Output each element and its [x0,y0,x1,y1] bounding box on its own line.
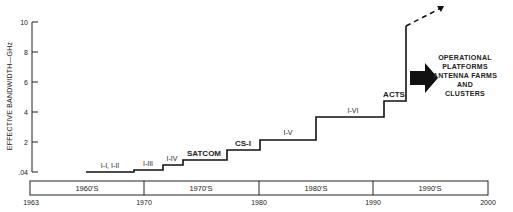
y-tick-label: .04 [18,169,28,176]
trend-extension-dashed [406,7,443,26]
annotation-line: CLUSTERS [445,90,485,97]
step-label: I-IV [167,155,178,162]
step-label: I-VI [348,107,359,114]
y-ticks [32,22,38,172]
y-tick-label: 2 [24,139,28,146]
x-tick-label: 1970 [136,199,152,206]
decade-label: 1960'S [75,184,98,193]
x-tick-label: 1963 [23,199,39,206]
decade-label: 1990'S [418,184,441,193]
step-label: I-V [284,129,293,136]
bandwidth-step-line [86,26,406,172]
x-tick-label: 1990 [365,199,381,206]
x-tick-label: 1980 [251,199,267,206]
step-label: I-III [143,160,153,167]
y-tick-label: 6 [24,79,28,86]
annotation-line: ANTENNA FARMS [433,72,497,79]
y-tick-label: 8 [24,49,28,56]
bandwidth-step-chart: .04 2 4 6 8 10 EFFECTIVE BANDWIDTH—GHz I… [0,0,513,212]
annotation-line: OPERATIONAL [438,54,492,61]
step-label: I-I, I-II [101,162,119,169]
step-label: ACTS [383,90,405,99]
x-tick-label: 2000 [480,199,496,206]
step-label: CS-I [235,139,251,148]
y-tick-label: 10 [20,19,28,26]
decade-label: 1970'S [189,184,212,193]
step-label: SATCOM [187,149,221,158]
y-axis-label: EFFECTIVE BANDWIDTH—GHz [6,41,13,150]
annotation-line: AND [457,81,473,88]
y-tick-label: 4 [24,109,28,116]
decade-label: 1980'S [304,184,327,193]
annotation-text: OPERATIONAL PLATFORMS ANTENNA FARMS AND … [433,54,497,97]
annotation-line: PLATFORMS [442,63,488,70]
